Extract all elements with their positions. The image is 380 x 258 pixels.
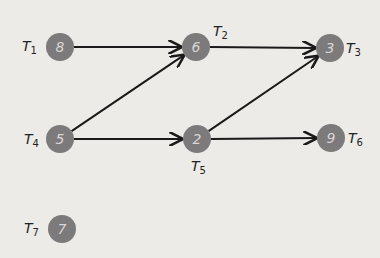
node-label-T1: T1 bbox=[22, 38, 37, 56]
node-value: 2 bbox=[193, 131, 202, 147]
node-label-T7: T7 bbox=[24, 220, 39, 238]
node-T1: 8 bbox=[46, 33, 74, 61]
node-value: 9 bbox=[327, 130, 336, 146]
node-label-T4: T4 bbox=[24, 131, 39, 149]
node-value: 7 bbox=[58, 221, 67, 237]
edge-T2-to-T3 bbox=[210, 47, 315, 48]
task-graph-diagram: 8T16T23T35T42T59T67T7 bbox=[0, 0, 380, 258]
node-value: 3 bbox=[326, 40, 335, 56]
node-label-T3: T3 bbox=[346, 40, 361, 58]
node-value: 8 bbox=[56, 39, 65, 55]
edge-T5-to-T6 bbox=[211, 138, 316, 139]
edge-T4-to-T2 bbox=[72, 55, 184, 131]
node-T2: 6 bbox=[182, 33, 210, 61]
node-value: 5 bbox=[56, 131, 65, 147]
node-label-T5: T5 bbox=[191, 158, 206, 176]
node-T4: 5 bbox=[46, 125, 74, 153]
node-T6: 9 bbox=[317, 124, 345, 152]
node-label-T2: T2 bbox=[213, 23, 228, 41]
node-T3: 3 bbox=[316, 34, 344, 62]
edge-T5-to-T3 bbox=[209, 56, 318, 131]
node-T5: 2 bbox=[183, 125, 211, 153]
node-label-T6: T6 bbox=[348, 130, 363, 148]
node-value: 6 bbox=[192, 39, 201, 55]
node-T7: 7 bbox=[48, 215, 76, 243]
